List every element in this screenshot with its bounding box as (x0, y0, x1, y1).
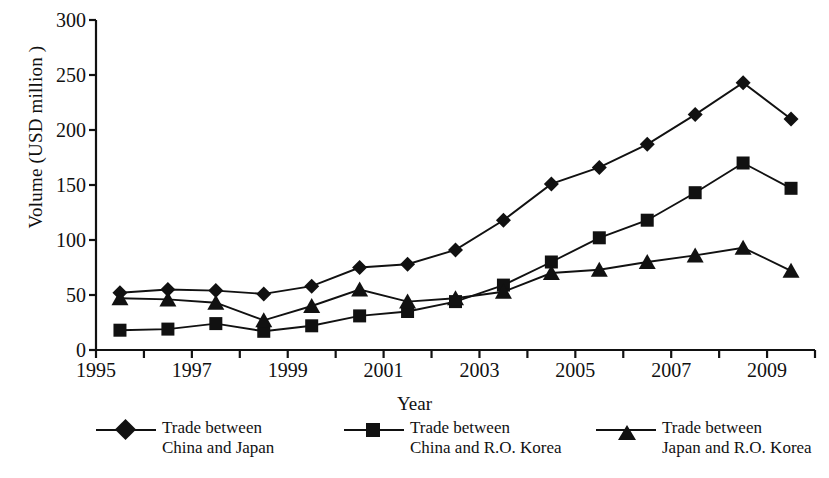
data-point-marker (737, 157, 750, 170)
data-point-marker (209, 317, 222, 330)
plot-area (0, 0, 829, 478)
data-point-marker (593, 231, 606, 244)
data-point-marker (255, 312, 272, 327)
data-point-marker (304, 279, 319, 294)
legend-key-triangle (596, 420, 656, 440)
data-point-marker (256, 286, 271, 301)
legend-item-triangle: Trade between Japan and R.O. Korea (596, 418, 820, 458)
data-point-marker (783, 263, 800, 278)
data-point-marker (113, 324, 126, 337)
data-point-marker (352, 260, 367, 275)
data-point-marker (400, 257, 415, 272)
legend-key-square (344, 420, 404, 440)
legend-label: Trade between China and Japan (162, 418, 274, 458)
legend-key-diamond (96, 420, 156, 440)
data-point-marker (161, 323, 174, 336)
data-point-marker (544, 176, 559, 191)
data-point-marker (688, 107, 703, 122)
legend-label: Trade between China and R.O. Korea (410, 418, 562, 458)
legend-label: Trade between Japan and R.O. Korea (662, 418, 812, 458)
data-point-marker (640, 137, 655, 152)
data-point-marker (353, 309, 366, 322)
triangle-marker-icon (618, 425, 636, 440)
legend-item-diamond: Trade between China and Japan (96, 418, 344, 458)
data-point-marker (784, 112, 799, 127)
data-point-marker (351, 282, 368, 297)
data-point-marker (735, 240, 752, 255)
data-point-marker (592, 160, 607, 175)
square-marker-icon (366, 423, 380, 437)
chart-legend: Trade between China and JapanTrade betwe… (96, 418, 820, 476)
data-point-marker (689, 186, 702, 199)
diamond-marker-icon (115, 419, 136, 440)
data-point-marker (305, 319, 318, 332)
data-point-marker (736, 75, 751, 90)
legend-item-square: Trade between China and R.O. Korea (344, 418, 596, 458)
chart-figure: Volume (USD million ) Year 0501001502002… (0, 0, 829, 478)
data-point-marker (496, 213, 511, 228)
data-point-marker (303, 298, 320, 313)
data-point-marker (448, 242, 463, 257)
data-point-marker (785, 182, 798, 195)
data-point-marker (641, 214, 654, 227)
